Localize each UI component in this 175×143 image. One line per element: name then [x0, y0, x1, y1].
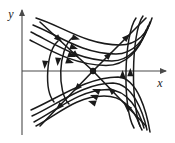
equilibrium-points	[90, 68, 96, 74]
separatrix-stable-separatrix-lower-right	[93, 71, 146, 126]
axes: x y	[7, 7, 166, 135]
flow-arrow-lower-branch-3-0	[91, 86, 101, 95]
equilibrium-point-saddle	[90, 68, 96, 74]
trajectory-upper-branch-1	[36, 18, 152, 45]
flow-arrow-right-branch-2-0	[127, 68, 133, 76]
phase-portrait-canvas: x y	[0, 0, 175, 143]
flow-arrow-left-branch-2-0	[54, 58, 61, 67]
phase-portrait-figure: x y	[0, 0, 175, 143]
x-axis-label: x	[156, 76, 163, 90]
y-axis-label: y	[7, 7, 14, 21]
